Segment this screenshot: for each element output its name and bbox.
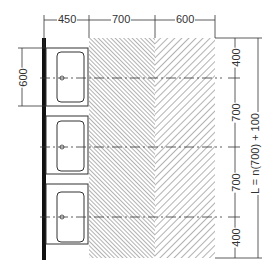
circulation-zone-hatch [155,38,215,258]
top-dim-600: 600 [175,14,195,25]
left-dim-600: 600 [18,67,29,87]
top-dim-450: 450 [57,14,77,25]
wall [42,38,46,260]
basin-3 [46,184,88,244]
basin-1 [46,48,88,106]
right-dim-400-bottom: 400 [231,227,242,247]
activity-zone-hatch [89,38,155,258]
right-dim-700-b: 700 [231,172,242,192]
right-dim-400-top: 400 [231,47,242,67]
right-dim-700-a: 700 [231,102,242,122]
basin-2 [46,116,88,174]
top-dim-700: 700 [111,14,131,25]
total-length-label: L = n(700) + 100 [250,112,261,195]
